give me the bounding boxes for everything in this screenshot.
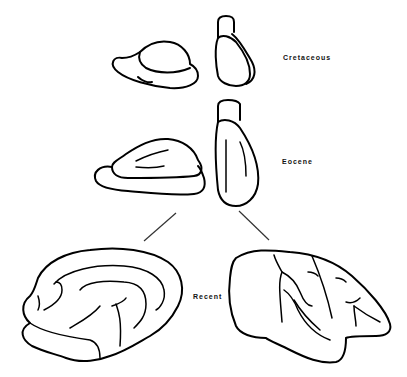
recent-calcarine-sulcus	[116, 304, 121, 346]
recent-superior-temporal-sulcus	[284, 290, 330, 340]
recent-frontal-sulcus	[44, 282, 62, 310]
recent-arcuate-branch	[354, 306, 356, 326]
recent-callosal-sulcus	[80, 281, 146, 328]
eocene-cortex-outline	[112, 139, 201, 178]
recent-frontal-sulcus-upper	[308, 272, 318, 276]
connector-line-right	[239, 211, 269, 240]
cretaceous-lateral-brain	[113, 41, 198, 88]
eocene-lateral-sulcus-upper	[136, 150, 168, 161]
cretaceous-olfactory-bulb	[139, 52, 190, 73]
brain-evolution-figure: Cretaceous Eocene Recent	[0, 0, 407, 377]
cretaceous-dorsal-brain	[216, 16, 255, 86]
recent-parieto-occipital-sulcus	[112, 298, 126, 306]
recent-arcuate-sulcus	[346, 298, 360, 303]
label-cretaceous: Cretaceous	[283, 54, 331, 61]
eocene-dorsal-sulcus-lateral	[240, 142, 246, 176]
recent-frontal-sulcus-middle	[336, 278, 346, 282]
eocene-dorsal-olfactory	[218, 100, 240, 122]
eocene-lateral-sulcus-lower	[136, 166, 164, 168]
recent-olfactory-sulcus	[38, 296, 40, 310]
recent-sylvian-fissure	[282, 272, 312, 306]
cretaceous-lateral-outline	[113, 41, 198, 88]
figure-drawing	[0, 0, 407, 377]
eocene-dorsal-brain	[216, 100, 259, 206]
connector-line-left	[144, 213, 176, 241]
label-eocene: Eocene	[282, 158, 313, 165]
recent-temporal-sulcus	[70, 306, 100, 328]
recent-medial-brain	[23, 249, 182, 362]
eocene-lateral-brain	[95, 139, 205, 195]
recent-cingulate-sulcus	[54, 266, 164, 310]
recent-precentral-sulcus	[312, 256, 332, 318]
eocene-lateral-outline	[95, 166, 205, 195]
cretaceous-dorsal-outline	[216, 36, 250, 86]
label-recent: Recent	[193, 293, 222, 300]
recent-central-sulcus	[274, 255, 282, 322]
recent-lower-sulcus	[30, 323, 100, 358]
recent-lateral-brain	[229, 250, 390, 362]
recent-principal-sulcus	[354, 306, 380, 322]
eocene-dorsal-outline	[216, 120, 259, 206]
